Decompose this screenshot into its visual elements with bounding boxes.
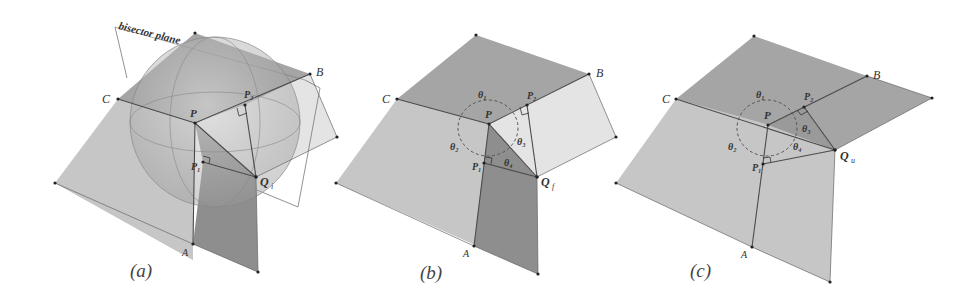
figure-canvas: bisector plane C B P P₂ P₁ Q i A (a) [0,0,980,308]
label-P1: P₁ [472,161,482,172]
label-theta4: θ₄ [504,157,513,168]
label-C: C [102,92,111,106]
bisector-plane-label: bisector plane [118,19,182,46]
label-Q-sub: u [851,156,855,165]
label-theta1: θ₁ [478,89,487,100]
label-B: B [873,68,881,82]
label-Q: Q [541,175,550,189]
label-P1: P₁ [191,161,201,172]
label-theta4: θ₄ [793,141,802,152]
panel-c: C B P P₂ P₁ Q u θ₁ θ₂ θ₃ θ₄ A (c) [614,34,933,283]
label-A: A [181,247,189,258]
caption-c: (c) [690,260,711,282]
label-A: A [740,249,748,260]
label-theta3: θ₃ [802,123,811,134]
label-Q-sub: f [552,182,556,191]
label-theta3: θ₃ [517,136,526,147]
bisector-plane-outline [115,27,127,78]
label-C: C [662,92,671,106]
panel-a: bisector plane C B P P₂ P₁ Q i A (a) [53,19,338,282]
label-P1: P₁ [752,162,762,173]
label-P: P [485,108,492,120]
label-Q: Q [260,175,269,189]
caption-a: (a) [130,260,152,282]
caption-b: (b) [420,262,442,284]
label-P2: P₂ [804,91,814,102]
sphere [130,37,300,207]
label-Q: Q [840,149,849,163]
face-lower-strip [474,163,538,274]
label-Q-sub: i [271,182,273,191]
label-theta2: θ₂ [728,141,737,152]
label-theta1: θ₁ [756,89,765,100]
label-B: B [596,66,604,80]
label-P2: P₂ [527,90,537,101]
label-P2: P₂ [244,89,254,100]
face-left [336,99,489,245]
label-P: P [190,107,197,119]
label-P: P [764,109,771,121]
panel-b: C B P P₂ P₁ Q f θ₁ θ₂ θ₃ θ₄ A (b) [334,33,617,284]
label-theta2: θ₂ [450,141,459,152]
label-B: B [316,65,324,79]
label-C: C [382,92,391,106]
label-A: A [462,248,470,259]
